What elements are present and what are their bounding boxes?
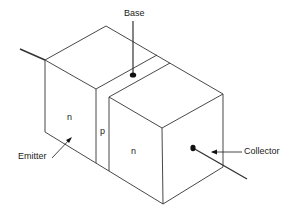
- emitter-label: Emitter: [18, 152, 47, 161]
- right-face-bottom-edge: [163, 167, 223, 204]
- collector-lead: [193, 148, 247, 179]
- collector-top-front-edge: [109, 97, 162, 128]
- base-label: Base: [124, 9, 145, 18]
- transistor-diagram: [0, 0, 294, 215]
- emitter-region-label: n: [67, 113, 72, 122]
- emitter-lead: [20, 49, 45, 60]
- collector-label: Collector: [244, 147, 280, 156]
- collector-arrowhead-icon: [211, 150, 217, 155]
- base-top-left-line: [96, 55, 157, 89]
- base-region-label: p: [100, 127, 105, 136]
- emitter-top-front-edge: [45, 60, 96, 89]
- top-face-back-edges: [45, 26, 223, 94]
- base-contact-dot: [130, 72, 136, 77]
- collector-contact-dot: [190, 145, 195, 151]
- bottom-front-edge: [45, 132, 163, 204]
- collector-front-vertical-edge: [162, 128, 163, 204]
- right-face-top-edge: [162, 94, 223, 128]
- collector-region-label: n: [131, 147, 136, 156]
- base-top-right-line: [109, 63, 170, 97]
